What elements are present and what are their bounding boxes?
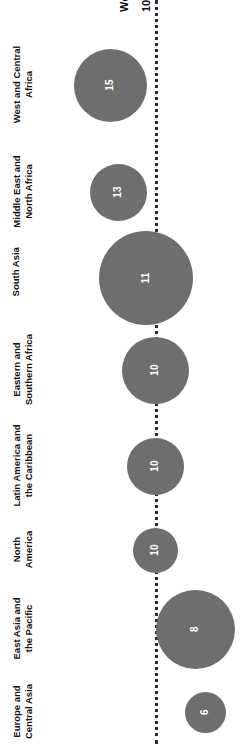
bubble-north-america[interactable]: 10	[133, 528, 178, 573]
world-reference-value-wrap: 10	[140, 8, 152, 26]
bubble-value-label: 15	[105, 79, 115, 91]
bubble-east-asia-and-the-pacific[interactable]: 8	[156, 590, 235, 669]
category-label-west-and-central-africa: West and Central Africa	[11, 33, 34, 137]
bubble-chart: World 10 15131110101086 West and Central…	[0, 0, 250, 744]
bubble-latin-america-and-the-caribbean[interactable]: 10	[127, 438, 184, 495]
bubble-south-asia[interactable]: 11	[99, 231, 193, 325]
bubble-europe-and-central-asia[interactable]: 6	[185, 692, 226, 733]
bubble-value-label: 10	[150, 544, 160, 556]
category-label-eastern-and-southern-africa: Eastern and Southern Africa	[11, 318, 34, 422]
world-reference-label: World	[118, 0, 130, 12]
bubble-value-label: 10	[150, 460, 160, 472]
category-label-europe-and-central-asia: Europe and Central Asia	[11, 660, 34, 744]
bubble-value-label: 13	[113, 186, 123, 198]
category-label-south-asia: South Asia	[10, 220, 22, 324]
bubble-west-and-central-africa[interactable]: 15	[74, 49, 147, 122]
world-reference-value: 10	[140, 0, 152, 12]
bubble-value-label: 11	[141, 273, 151, 284]
bubble-middle-east-and-north-africa[interactable]: 13	[90, 164, 147, 221]
bubble-value-label: 8	[190, 626, 200, 632]
bubble-value-label: 6	[200, 709, 210, 715]
bubble-eastern-and-southern-africa[interactable]: 10	[122, 337, 189, 404]
bubble-value-label: 10	[150, 364, 160, 376]
